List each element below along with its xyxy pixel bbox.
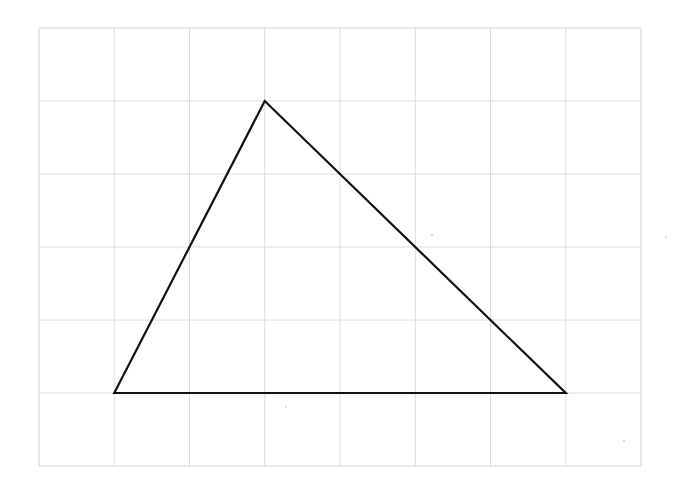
grid-diagram (0, 0, 675, 484)
speck-marks (285, 234, 667, 442)
grid-lines (39, 28, 641, 466)
